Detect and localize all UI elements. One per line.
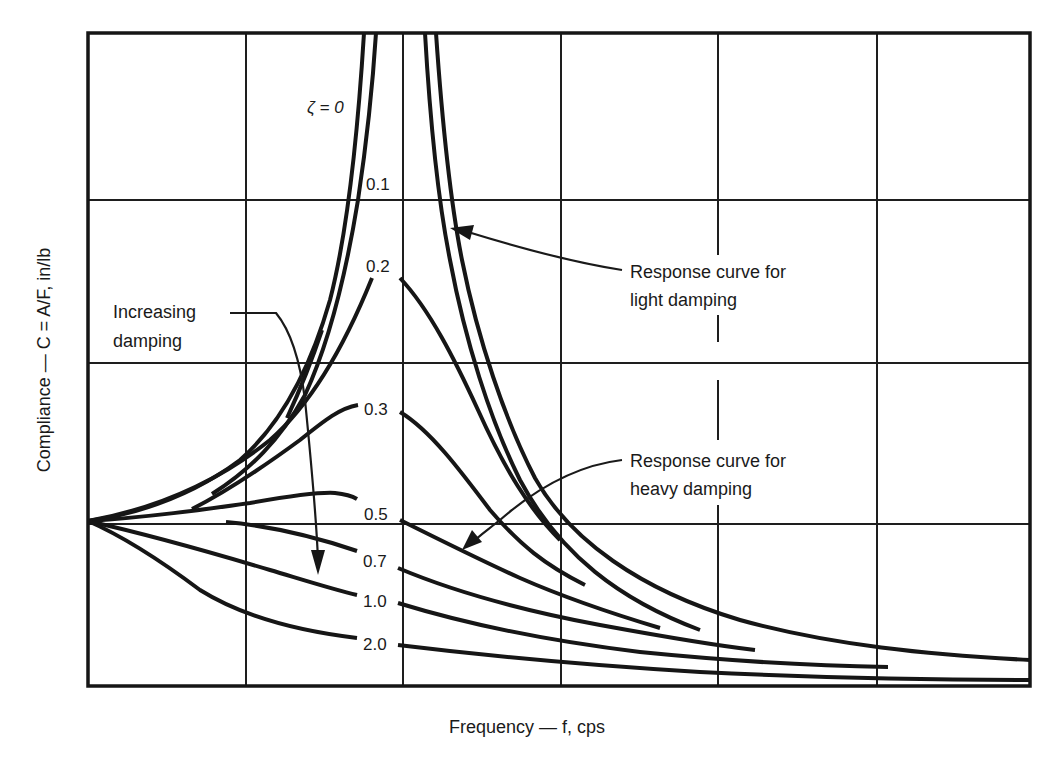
label-zeta-0.5: 0.5 bbox=[364, 505, 388, 524]
curve-zeta-0.1-right bbox=[436, 33, 1030, 660]
label-zeta-0.3: 0.3 bbox=[364, 400, 388, 419]
curve-zeta-2.0-right bbox=[398, 645, 1030, 680]
label-zeta-0.1: 0.1 bbox=[366, 175, 390, 194]
arrow-down-left-icon bbox=[462, 530, 482, 550]
label-zeta-0: ζ = 0 bbox=[307, 98, 344, 117]
arrow-left-icon bbox=[450, 225, 474, 240]
label-zeta-2.0: 2.0 bbox=[363, 635, 387, 654]
label-zeta-0.2: 0.2 bbox=[366, 257, 390, 276]
increasing-damping-line2: damping bbox=[113, 331, 182, 351]
x-axis-label: Frequency — f, cps bbox=[449, 717, 605, 737]
heavy-damping-line1: Response curve for bbox=[630, 451, 786, 471]
curve-zeta-0.2-right bbox=[400, 278, 560, 540]
curve-labels: ζ = 0 0.1 0.2 0.3 0.5 0.7 1.0 2.0 bbox=[307, 98, 390, 654]
annotation-heavy-damping: Response curve for heavy damping bbox=[462, 443, 855, 550]
annotation-light-damping: Response curve for light damping bbox=[450, 225, 855, 315]
curve-zeta-1.0-right bbox=[398, 603, 888, 667]
arrow-down-icon bbox=[311, 550, 325, 575]
light-damping-leader bbox=[468, 232, 622, 270]
grid bbox=[88, 33, 1030, 686]
light-damping-line1: Response curve for bbox=[630, 262, 786, 282]
heavy-damping-leader bbox=[470, 460, 622, 545]
compliance-frequency-chart: ζ = 0 0.1 0.2 0.3 0.5 0.7 1.0 2.0 Increa… bbox=[0, 0, 1055, 758]
curves bbox=[88, 33, 1030, 680]
label-zeta-1.0: 1.0 bbox=[363, 592, 387, 611]
curve-zeta-0.5-left bbox=[88, 493, 357, 521]
heavy-damping-line2: heavy damping bbox=[630, 479, 752, 499]
label-zeta-0.7: 0.7 bbox=[363, 552, 387, 571]
curve-zeta-0.1-left bbox=[212, 33, 376, 494]
plot-frame bbox=[88, 33, 1030, 686]
light-damping-line2: light damping bbox=[630, 290, 737, 310]
increasing-damping-line1: Increasing bbox=[113, 302, 196, 322]
y-axis-label: Compliance — C = A/F, in/lb bbox=[34, 248, 54, 473]
curve-zeta-0-right bbox=[425, 33, 700, 630]
